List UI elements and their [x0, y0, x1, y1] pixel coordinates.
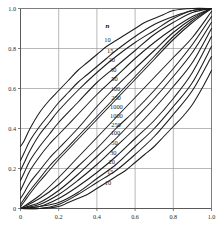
curve-label-lower-label-1000: 1000 [110, 112, 123, 119]
curve-label-lower-label-250: 250 [111, 121, 121, 128]
y-tick-label: 0.4 [8, 125, 16, 132]
x-tick-label: 0.2 [55, 213, 63, 220]
x-tick-label: 0.8 [169, 213, 177, 220]
curve-label-lower-label-30: 30 [110, 149, 116, 156]
curve-label-upper-label-250: 250 [111, 94, 121, 101]
curve-label-upper-label-50: 50 [111, 75, 117, 82]
curve-label-lower-label-15: 15 [107, 168, 113, 175]
curve-label-upper-label-15: 15 [107, 47, 113, 54]
x-tick-label: 0 [19, 213, 22, 220]
curve-label-upper-label-30: 30 [110, 66, 116, 73]
y-tick-label: 0.2 [8, 165, 16, 172]
y-tick-label: 0.8 [8, 45, 16, 52]
curve-label-upper-label-1000: 1000 [110, 103, 123, 110]
binomial-confidence-belt-chart: n=10 uppern=10 lowern=15 uppern=15 lower… [0, 0, 224, 232]
y-tick-label: 1.0 [8, 5, 16, 12]
curve-label-upper-label-20: 20 [109, 56, 115, 63]
y-tick-label: 0 [13, 205, 16, 212]
curve-label-upper-label-100: 100 [111, 85, 121, 92]
x-tick-label: 1.0 [208, 213, 216, 220]
curve-label-lower-label-50: 50 [111, 139, 117, 146]
curve-label-upper-label-10: 10 [104, 36, 110, 43]
x-tick-label: 0.6 [131, 213, 139, 220]
curve-label-lower-label-100: 100 [111, 129, 121, 136]
x-tick-label: 0.4 [93, 213, 101, 220]
curve-label-lower-label-10: 10 [105, 179, 111, 186]
legend-title-n: n [105, 22, 109, 30]
curve-label-lower-label-20: 20 [109, 158, 115, 165]
chart-canvas: n=10 uppern=10 lowern=15 uppern=15 lower… [0, 0, 224, 232]
y-tick-label: 0.6 [8, 85, 16, 92]
